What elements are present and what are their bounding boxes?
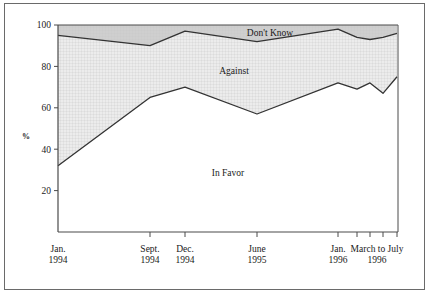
y-axis-title: % (22, 132, 30, 141)
x-tick-label-line1: March to July (351, 244, 404, 254)
series-label-don-t-know: Don't Know (247, 28, 293, 38)
x-tick-label-line1: Jan. (50, 244, 65, 254)
x-tick-label-line2: 1994 (141, 255, 160, 265)
series-label-in-favor: In Favor (212, 168, 245, 178)
x-tick-label-line2: 1994 (49, 255, 68, 265)
x-tick-label-line1: June (248, 244, 265, 254)
x-tick-label-line2: 1996 (329, 255, 348, 265)
y-tick-label: 60 (42, 103, 52, 113)
series-label-against: Against (219, 66, 249, 76)
x-tick-label-line2: 1995 (248, 255, 267, 265)
y-tick-label: 20 (42, 186, 52, 196)
x-tick-label-line2: 1994 (176, 255, 195, 265)
chart-figure: 20406080100%Jan.1994Sept.1994Dec.1994Jun… (0, 0, 429, 294)
x-tick-label-line1: Sept. (140, 244, 159, 254)
y-tick-label: 80 (42, 62, 52, 72)
area-chart: 20406080100%Jan.1994Sept.1994Dec.1994Jun… (0, 0, 429, 294)
x-tick-label-line2: 1996 (368, 255, 387, 265)
y-tick-label: 100 (37, 20, 52, 30)
x-tick-label-line1: Dec. (176, 244, 194, 254)
y-tick-label: 40 (42, 145, 52, 155)
x-tick-label-line1: Jan. (330, 244, 345, 254)
